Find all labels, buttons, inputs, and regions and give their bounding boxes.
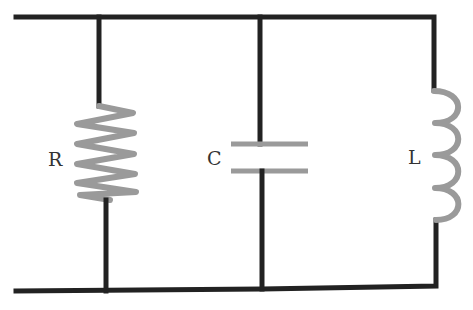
- inductor-symbol: [434, 91, 458, 220]
- inductor-label: L: [408, 148, 421, 167]
- resistor-symbol: [77, 106, 136, 200]
- resistor-label: R: [48, 150, 62, 169]
- capacitor-label: C: [207, 149, 222, 168]
- top-rail-wire: [16, 17, 434, 90]
- parallel-rlc-circuit: [0, 0, 473, 310]
- bottom-rail-wire: [16, 220, 436, 291]
